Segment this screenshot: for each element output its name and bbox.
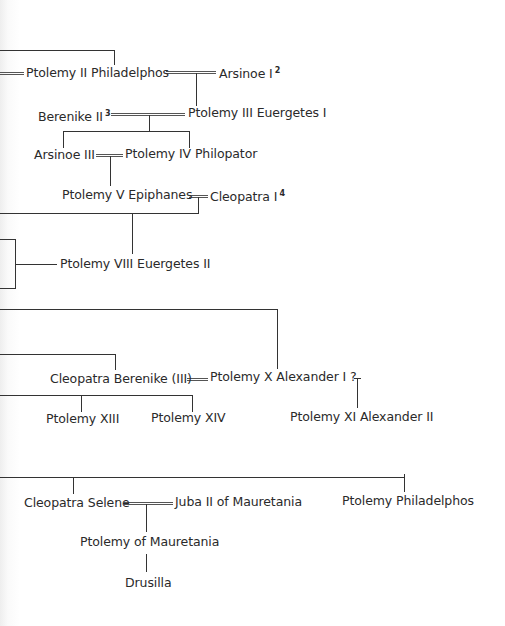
connector-line: [277, 309, 278, 369]
marriage-line: [111, 113, 185, 116]
connector-line: [146, 504, 147, 532]
connector-line: [114, 50, 115, 65]
connector-line: [63, 131, 190, 132]
connector-line: [110, 156, 111, 186]
person-name: Ptolemy VIII Euergetes II: [60, 256, 210, 271]
person-ptolemy-of-mauretania: Ptolemy of Mauretania: [80, 535, 219, 549]
person-ptolemy-iv: Ptolemy IV Philopator: [125, 147, 257, 161]
connector-line: [0, 50, 115, 51]
connector-line: [149, 115, 150, 132]
person-ptolemy-viii: Ptolemy VIII Euergetes II: [60, 257, 210, 271]
person-juba-ii: Juba II of Mauretania: [175, 495, 302, 509]
person-name: Arsinoe III: [34, 147, 95, 162]
connector-line: [0, 309, 278, 310]
person-cleopatra-i: Cleopatra I4: [210, 187, 285, 204]
marriage-line: [0, 72, 24, 75]
connector-line: [0, 395, 193, 396]
connector-line: [0, 239, 15, 240]
person-ptolemy-xiii: Ptolemy XIII: [46, 412, 119, 426]
person-name: Cleopatra Selene: [24, 495, 130, 510]
footnote-marker: 4: [279, 189, 284, 198]
person-name: Arsinoe I: [219, 66, 273, 81]
person-name: Drusilla: [125, 575, 171, 590]
connector-line: [146, 554, 147, 572]
person-name: Ptolemy III Euergetes I: [188, 105, 326, 120]
connector-line: [73, 477, 74, 494]
person-name: Ptolemy Philadelphos: [342, 493, 474, 508]
connector-line: [132, 213, 133, 254]
connector-line: [0, 477, 405, 478]
person-name: Ptolemy XI Alexander II: [290, 409, 433, 424]
connector-line: [63, 131, 64, 148]
person-name: Ptolemy XIII: [46, 411, 119, 426]
person-arsinoe-i: Arsinoe I2: [219, 64, 280, 81]
connector-line: [357, 378, 358, 408]
person-ptolemy-xiv: Ptolemy XIV: [151, 411, 226, 425]
person-ptolemy-x: Ptolemy X Alexander I ?: [210, 370, 357, 384]
person-cleopatra-berenike: Cleopatra Berenike (III): [50, 372, 192, 386]
person-ptolemy-iii: Ptolemy III Euergetes I: [188, 106, 326, 120]
marriage-line: [124, 502, 173, 505]
person-ptolemy-ii: Ptolemy II Philadelphos: [26, 66, 169, 80]
footnote-marker: 3: [105, 109, 110, 118]
person-name: Juba II of Mauretania: [175, 494, 302, 509]
connector-line: [0, 288, 16, 289]
person-cleopatra-selene: Cleopatra Selene: [24, 496, 130, 510]
person-name: Ptolemy X Alexander I ?: [210, 369, 357, 384]
person-name: Ptolemy IV Philopator: [125, 146, 257, 161]
connector-line: [81, 395, 82, 412]
person-ptolemy-xi: Ptolemy XI Alexander II: [290, 410, 433, 424]
connector-line: [15, 264, 57, 265]
person-ptolemy-v: Ptolemy V Epiphanes: [62, 188, 192, 202]
person-name: Berenike II: [38, 109, 103, 124]
person-name: Ptolemy of Mauretania: [80, 534, 219, 549]
connector-line: [0, 354, 115, 355]
person-name: Ptolemy XIV: [151, 410, 226, 425]
person-arsinoe-iii: Arsinoe III: [34, 148, 95, 162]
connector-line: [0, 213, 199, 214]
person-berenike-ii: Berenike II3: [38, 107, 110, 124]
person-name: Cleopatra Berenike (III): [50, 371, 192, 386]
person-name: Ptolemy V Epiphanes: [62, 187, 192, 202]
person-ptolemy-philadelphos: Ptolemy Philadelphos: [342, 494, 474, 508]
connector-line: [404, 474, 405, 492]
connector-line: [198, 197, 199, 213]
person-name: Ptolemy II Philadelphos: [26, 65, 169, 80]
connector-line: [196, 73, 197, 106]
person-name: Cleopatra I: [210, 189, 277, 204]
footnote-marker: 2: [275, 66, 280, 75]
connector-line: [115, 354, 116, 370]
person-drusilla: Drusilla: [125, 576, 171, 590]
marriage-line: [166, 71, 216, 74]
